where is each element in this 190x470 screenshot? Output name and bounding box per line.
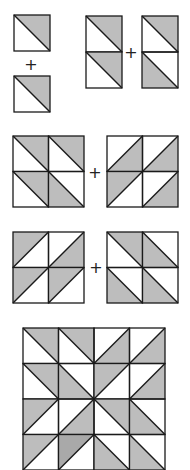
- plus-sign: +: [24, 57, 38, 73]
- block-b: [107, 136, 178, 207]
- plus-sign: +: [88, 165, 102, 181]
- quilt-4x4: [23, 328, 165, 470]
- block-d: [107, 232, 178, 303]
- strip-right: [142, 16, 178, 88]
- block-c: [13, 232, 84, 303]
- block-a: [13, 136, 84, 207]
- plus-sign: +: [124, 45, 138, 61]
- strip-left: [86, 16, 122, 88]
- single-square-top: [14, 15, 50, 51]
- plus-sign: +: [89, 260, 103, 276]
- single-square-bottom: [14, 76, 50, 112]
